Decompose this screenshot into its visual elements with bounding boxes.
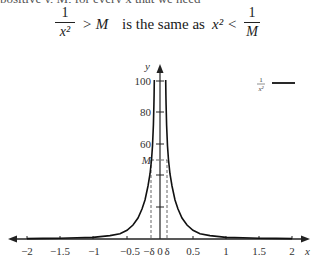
x-tick-label: 1 <box>223 245 229 257</box>
x-axis-left-arrow-icon <box>8 236 17 243</box>
curve-right-branch <box>166 80 292 239</box>
x-tick-label: −1.5 <box>50 245 70 257</box>
x-tick-label: −1 <box>88 245 100 257</box>
legend-label-numerator: 1 <box>259 76 263 84</box>
legend: 1 x² <box>257 76 295 93</box>
x-tick-label: 0 <box>157 245 163 257</box>
x-tick-label: 1.5 <box>252 245 266 257</box>
y-axis-label: y <box>144 60 150 72</box>
x-axis-label: x <box>304 245 310 257</box>
curve-left-branch <box>27 80 154 239</box>
x-tick-label: δ <box>164 245 169 257</box>
x-tick-label: 0.5 <box>186 245 200 257</box>
plot-area: −2 −1.5 −1 −0.5 −δ 0 δ 0.5 1 1.5 2 x 100… <box>0 0 323 269</box>
y-tick-label: 80 <box>140 106 152 118</box>
x-tick-label: −0.5 <box>120 245 140 257</box>
y-axis-arrow-icon <box>157 64 164 73</box>
y-tick-label-M: M <box>141 154 152 166</box>
x-tick-label: −2 <box>21 245 33 257</box>
x-tick-label: −δ <box>143 245 154 257</box>
x-axis-right-arrow-icon <box>301 236 310 243</box>
legend-label-denominator: x² <box>257 85 264 93</box>
y-tick-label: 100 <box>135 75 152 87</box>
y-tick-label: 60 <box>140 138 152 150</box>
x-tick-label: 2 <box>289 245 295 257</box>
